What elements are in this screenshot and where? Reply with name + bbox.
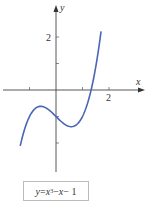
curve-series xyxy=(20,31,101,146)
y-tick-label-2: 2 xyxy=(46,32,51,43)
x-axis-arrow-icon xyxy=(138,88,145,93)
plot-area: x y 2 2 xyxy=(0,0,150,207)
x-axis-label: x xyxy=(135,76,141,87)
equation-label: y = x 3 − x − 1 xyxy=(23,181,89,201)
y-axis-arrow-icon xyxy=(54,5,59,12)
chart-root: x y 2 2 y = x 3 − x − 1 xyxy=(0,0,150,207)
eq-minus2: − 1 xyxy=(63,186,76,197)
x-tick-label-2: 2 xyxy=(106,92,111,103)
y-axis-label: y xyxy=(59,2,65,13)
